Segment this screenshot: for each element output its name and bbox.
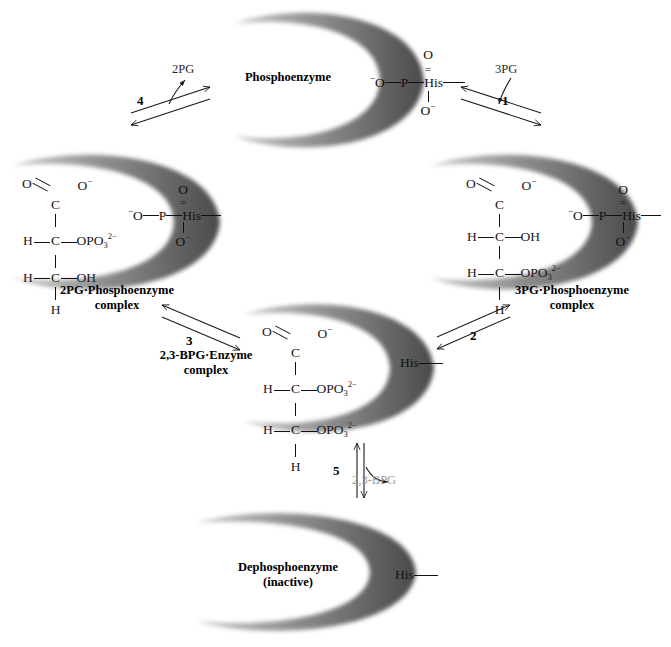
phosphoryl-left-oxygen: O: [375, 74, 385, 89]
phosphoryl-bottom-oxygen: O: [616, 233, 626, 248]
carbon-c3: C: [291, 422, 300, 437]
carbon-c2: C: [495, 229, 504, 244]
diagram-canvas: Phosphoenzyme O = −OPHis O−: [0, 0, 671, 647]
structure-row-c1: O O−: [466, 172, 561, 195]
his-label: His: [395, 567, 414, 582]
phosphoryl-phosphorus: P: [401, 74, 409, 89]
phosphoryl-his: His: [622, 207, 641, 222]
c1-charge: −: [327, 324, 332, 334]
c2-substituent: OPO: [317, 380, 344, 395]
c1-hydroxyl-oxygen: O: [318, 326, 328, 341]
his-label: His: [400, 355, 419, 370]
c2-sup: 2−: [348, 379, 357, 389]
c3-substituent: OPO: [317, 421, 344, 436]
c1-carbonyl-oxygen: O: [22, 176, 32, 191]
phosphoryl-top-oxygen: O: [178, 182, 188, 197]
pocket-label-phosphoenzyme: Phosphoenzyme: [228, 70, 348, 85]
phosphoryl-phosphorus: P: [159, 207, 167, 222]
c2-sub: 3: [104, 240, 108, 250]
c3-hydrogen: H: [263, 422, 273, 437]
structure-row-c1: O O−: [262, 320, 357, 343]
phosphoryl-group-left: O = −OPHis O−: [128, 183, 221, 248]
phosphoryl-his: His: [182, 207, 201, 222]
c2-sup: 2−: [108, 231, 117, 241]
c3-sub: 3: [344, 429, 348, 439]
pocket-label-bpg-complex: 2,3-BPG·Enzyme complex: [136, 348, 276, 378]
step-number-2: 2: [470, 328, 477, 344]
c3-hydrogen: H: [467, 265, 477, 280]
c3-substituent: OPO: [521, 264, 548, 279]
substrate-label-3pg: 3PG: [495, 62, 517, 77]
c2-hydrogen: H: [263, 381, 273, 396]
c3-sup: 2−: [348, 420, 357, 430]
structure-row-c2: H C OH: [466, 227, 561, 246]
pocket-label-3pg-line1: 3PG·Phosphoenzyme: [477, 283, 667, 298]
pocket-label-dephospho-line1: Dephosphoenzyme: [203, 560, 373, 575]
c1-carbonyl-oxygen: O: [466, 176, 476, 191]
carbon-c1: C: [51, 197, 60, 212]
step-number-4: 4: [137, 93, 144, 109]
reaction-arrow-step-5: [357, 443, 388, 498]
pocket-label-3pg-complex: 3PG·Phosphoenzyme complex: [477, 283, 667, 313]
phosphoryl-top-oxygen: O: [423, 47, 433, 62]
pocket-label-2pg-line2: complex: [22, 298, 212, 313]
phosphoryl-bottom-charge: −: [430, 101, 435, 111]
phosphoryl-top-oxygen: O: [618, 182, 628, 197]
step-number-3: 3: [186, 333, 193, 349]
step-number-1: 1: [502, 93, 509, 109]
c1-carbonyl-oxygen: O: [262, 324, 272, 339]
structure-bpg: O O− C H C: [262, 320, 357, 476]
pocket-label-dephospho-line2: (inactive): [203, 575, 373, 590]
structure-row-c2: H C OPO32−: [22, 227, 117, 255]
carbon-c1: C: [495, 197, 504, 212]
structure-row-c3: H C OPO32−: [262, 416, 357, 444]
carbon-c2: C: [51, 233, 60, 248]
carbon-c2: C: [291, 381, 300, 396]
phosphoryl-group-right: O = −OPHis O−: [568, 183, 661, 248]
step-number-5: 5: [333, 463, 340, 479]
structure-row-c2: H C OPO32−: [262, 375, 357, 403]
c1-hydroxyl-oxygen: O: [522, 178, 532, 193]
pocket-label-3pg-line2: complex: [477, 298, 667, 313]
reaction-arrow-step-1: [461, 78, 541, 125]
carbon-c1: C: [291, 345, 300, 360]
phosphoryl-group-top: O = −OPHis O−: [370, 48, 465, 117]
c2-substituent: OPO: [77, 232, 104, 247]
c1-charge: −: [531, 176, 536, 186]
his-residue-bpg: His: [400, 356, 443, 370]
c1-hydroxyl-oxygen: O: [78, 178, 88, 193]
phosphoryl-bottom-oxygen: O: [176, 233, 186, 248]
his-residue-dephospho: His: [395, 568, 438, 582]
pocket-label-dephosphoenzyme: Dephosphoenzyme (inactive): [203, 560, 373, 590]
pocket-label-bpg-line1: 2,3-BPG·Enzyme: [136, 348, 276, 363]
phosphoryl-phosphorus: P: [599, 207, 607, 222]
phosphoryl-bottom-charge: −: [625, 232, 630, 242]
c3-sup: 2−: [552, 263, 561, 273]
carbon-c3: C: [495, 265, 504, 280]
substrate-label-bpg: 2,3-BPG: [352, 473, 396, 488]
substrate-label-2pg: 2PG: [172, 62, 194, 77]
phosphoryl-left-oxygen: O: [133, 207, 143, 222]
pocket-label-2pg-complex: 2PG·Phosphoenzyme complex: [22, 283, 212, 313]
phosphoryl-bottom-charge: −: [185, 232, 190, 242]
c2-substituent: OH: [521, 229, 541, 244]
phosphoryl-his: His: [424, 74, 443, 89]
phosphoryl-bottom-oxygen: O: [421, 102, 431, 117]
c3-sub: 3: [548, 272, 552, 282]
c3-terminal-hydrogen: H: [291, 459, 301, 474]
pocket-label-2pg-line1: 2PG·Phosphoenzyme: [22, 283, 212, 298]
phosphoryl-left-oxygen: O: [573, 207, 583, 222]
c1-charge: −: [87, 176, 92, 186]
structure-row-c1: O O−: [22, 172, 117, 195]
pocket-label-bpg-line2: complex: [136, 363, 276, 378]
c2-hydrogen: H: [467, 229, 477, 244]
c2-sub: 3: [344, 388, 348, 398]
c2-hydrogen: H: [23, 233, 33, 248]
